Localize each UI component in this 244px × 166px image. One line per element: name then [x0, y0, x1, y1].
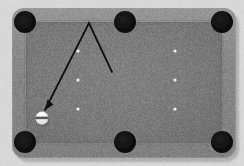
- spot-left-bottom: [76, 107, 79, 110]
- spot-left-middle: [76, 78, 79, 81]
- spot-left-top: [76, 49, 79, 52]
- table-felt: [26, 22, 222, 143]
- spot-right-middle: [173, 78, 176, 81]
- spot-right-bottom: [173, 107, 176, 110]
- pocket-top-left: [14, 11, 36, 33]
- pocket-bottom-right: [211, 131, 233, 153]
- diagram-canvas: [0, 0, 244, 166]
- pocket-top-center: [114, 11, 136, 33]
- spot-right-top: [173, 49, 176, 52]
- pool-table-diagram: [0, 0, 244, 166]
- pocket-top-right: [211, 11, 233, 33]
- pocket-bottom-left: [14, 131, 36, 153]
- cue-ball-stripe: [36, 117, 49, 120]
- pocket-bottom-center: [114, 131, 136, 153]
